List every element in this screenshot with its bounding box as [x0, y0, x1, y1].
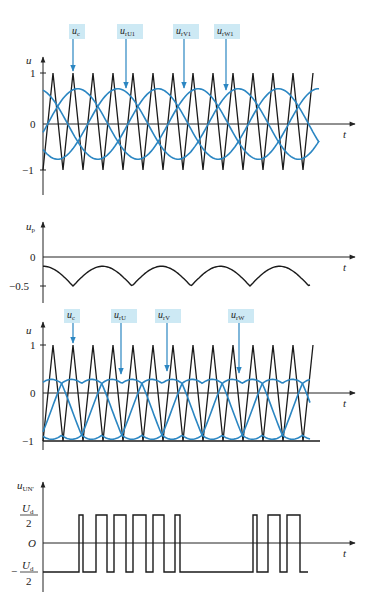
tick-label-neg1: −1 [22, 435, 34, 447]
y-axis-label: uUN' [17, 479, 34, 493]
panel-zero-sequence: up t 0 −0.5 [9, 220, 355, 303]
reference-rU [43, 379, 310, 439]
panel-modified-references: u t 1 0 −1 ucurUurVurW [22, 309, 355, 450]
callout-uc: uc [64, 309, 80, 343]
callouts: ucurUurVurW [64, 309, 254, 374]
callout-urW1: urW1 [214, 24, 240, 90]
tick-label-1: 1 [30, 339, 36, 351]
tick-label-ud-half-num: Ud [22, 502, 34, 516]
callout-urU1: urU1 [117, 24, 143, 88]
x-axis-label: t [343, 128, 347, 140]
zero-sequence-up [43, 266, 310, 286]
callout-uc: uc [69, 24, 85, 71]
tick-label-neg-ud-half-den: 2 [26, 575, 32, 587]
tick-label-neg-ud-half-num: Ud [22, 559, 34, 573]
tick-label-0: 0 [30, 118, 36, 130]
waveforms [43, 266, 310, 286]
x-axis-label: t [343, 547, 347, 559]
tick-label-neg0.5: −0.5 [9, 280, 29, 292]
x-axis-label: t [343, 397, 347, 409]
tick-label-1: 1 [30, 67, 36, 79]
callout-urV: urV [155, 309, 181, 371]
y-axis-label: up [26, 220, 36, 234]
tick-label-0: 0 [30, 251, 36, 263]
pulse-waveform [43, 515, 308, 572]
y-axis-label: u [26, 54, 32, 66]
callout-urV1: urV1 [173, 24, 199, 88]
tick-label-0: 0 [30, 387, 36, 399]
tick-label-neg-sign: − [11, 565, 17, 577]
panel-phase-voltage: uUN' t Ud 2 O − Ud 2 [11, 479, 355, 592]
phase-voltage-uun [43, 515, 308, 572]
pwm-waveform-figure: u t 1 0 −1 ucurU1urV1urW1 up t 0 −0.5 u … [0, 0, 374, 601]
tick-label-neg1: −1 [22, 164, 34, 176]
callout-urW: urW [228, 309, 254, 373]
tick-label-ud-half-den: 2 [26, 517, 32, 529]
tick-label-origin: O [28, 537, 36, 549]
x-axis-label: t [343, 261, 347, 273]
panel-fundamental-references: u t 1 0 −1 ucurU1urV1urW1 [22, 24, 355, 195]
y-axis-label: u [26, 324, 32, 336]
waveforms [43, 73, 319, 170]
carrier-triangle-uc [43, 73, 313, 170]
